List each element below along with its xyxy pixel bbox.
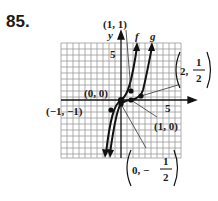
label-m1-m1: (−1, −1) <box>46 105 83 118</box>
point-0-mhalf <box>118 101 123 106</box>
label-0-0: (0, 0) <box>84 87 108 100</box>
svg-text:2: 2 <box>196 72 202 84</box>
g-label: g <box>149 30 156 42</box>
label-0-mhalf: 0, − 1 2 <box>127 150 178 186</box>
axes <box>61 31 196 158</box>
f-label: f <box>135 30 140 42</box>
label-1-1: (1, 1) <box>103 18 127 31</box>
x-tick-5: 5 <box>165 102 171 114</box>
svg-text:1: 1 <box>196 56 202 68</box>
x-axis-arrow-icon <box>188 97 196 103</box>
point-1-1 <box>128 88 133 93</box>
svg-text:2,: 2, <box>180 65 189 77</box>
graph: (1, 1) y f g 5 5 (0, 0) (−1, −1) (1, 0) … <box>0 0 218 201</box>
point-1-0 <box>128 97 133 102</box>
svg-text:1: 1 <box>163 155 169 167</box>
svg-text:0, −: 0, − <box>132 164 149 176</box>
svg-text:2: 2 <box>163 171 169 183</box>
label-1-0: (1, 0) <box>154 120 178 133</box>
point-2-half <box>138 93 143 98</box>
point-m1-m1 <box>108 107 113 112</box>
y-axis-arrow-icon <box>118 31 124 39</box>
g-down-arrow-icon <box>107 149 114 158</box>
y-axis-label: y <box>106 29 113 41</box>
y-tick-5: 5 <box>110 48 116 60</box>
